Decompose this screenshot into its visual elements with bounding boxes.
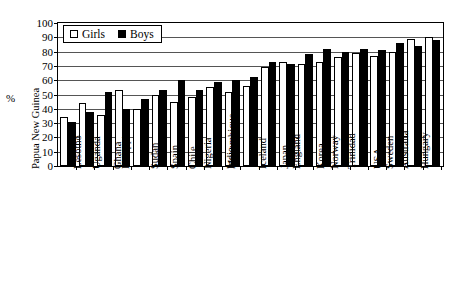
- x-axis-category-labels: Papua New GuineaLesothoUgandaGhanaPhilip…: [57, 169, 444, 285]
- bar-group: [132, 23, 150, 166]
- x-axis-label-cell: Hungary: [425, 169, 443, 285]
- x-axis-label-cell: USA: [370, 169, 388, 285]
- x-axis-label-cell: Trinidad: [351, 169, 369, 285]
- x-axis-tick-label: Papua New Guinea: [31, 88, 42, 169]
- x-axis-label-cell: Chile: [186, 169, 204, 285]
- y-axis-tick-label: 70: [42, 60, 53, 72]
- x-axis-label-cell: Ghana: [113, 169, 131, 285]
- y-axis-unit-label: %: [6, 92, 15, 104]
- x-axis-label-cell: Papua New Guinea: [58, 169, 76, 285]
- bar-chart: % 0102030405060708090100 Girls Boys Papu…: [0, 0, 453, 288]
- x-axis-tick-label: Australia: [401, 131, 412, 170]
- y-axis-tick-label: 90: [42, 31, 53, 43]
- bar-girls: [243, 86, 251, 166]
- x-axis-label-cell: Nigeria: [205, 169, 223, 285]
- y-axis-tick-label: 10: [42, 146, 53, 158]
- bar-boys: [433, 40, 441, 166]
- x-axis-tick-label: Nigeria: [203, 138, 214, 170]
- bar-boys: [141, 99, 149, 166]
- x-axis-tick-label: Norway: [330, 135, 341, 169]
- bar-boys: [305, 54, 313, 166]
- x-axis-label-cell: Sudan: [150, 169, 168, 285]
- legend-item-boys: Boys: [118, 28, 154, 40]
- x-axis-label-cell: England: [296, 169, 314, 285]
- x-axis-label-cell: India: [223, 169, 241, 285]
- x-axis-tick-label: Iceland: [258, 138, 269, 169]
- x-axis-label-cell: Sweden: [388, 169, 406, 285]
- legend-swatch-boys-icon: [118, 30, 126, 38]
- x-axis-label-cell: Philippines: [131, 169, 149, 285]
- bar-boys: [214, 82, 222, 166]
- x-axis-label-cell: Spain: [168, 169, 186, 285]
- x-axis-tick-label: Chile: [189, 146, 200, 169]
- x-axis-tick-label: Korea: [315, 143, 326, 169]
- x-axis-tick-label: Trinidad: [347, 133, 358, 169]
- legend-label-girls: Girls: [82, 28, 105, 40]
- x-axis-label-cell: Lesotho: [76, 169, 94, 285]
- x-axis-tick-label: Spain: [170, 145, 181, 169]
- y-axis-tick-label: 50: [42, 89, 53, 101]
- bar-boys: [360, 49, 368, 166]
- bar-girls: [60, 117, 68, 166]
- x-axis-tick-label: Philippines: [121, 122, 132, 169]
- bar-girls: [133, 109, 141, 166]
- y-axis-tick-label: 20: [42, 131, 53, 143]
- x-axis-tick-label: England: [292, 134, 303, 169]
- legend-item-girls: Girls: [70, 28, 105, 40]
- x-axis-tick-label: Lesotho: [73, 135, 84, 169]
- y-axis-tick-label: 100: [37, 17, 54, 29]
- y-axis-tick-label: 80: [42, 46, 53, 58]
- x-axis-label-cell: Iceland: [260, 169, 278, 285]
- y-axis-tick-label: 60: [42, 74, 53, 86]
- x-axis-tick-label: Sudan: [150, 143, 161, 169]
- x-axis-tick-label: Mozambique: [227, 114, 238, 169]
- y-axis-tick-label: 30: [42, 117, 53, 129]
- chart-legend: Girls Boys: [63, 25, 162, 43]
- x-axis-label-cell: Australia: [406, 169, 424, 285]
- y-axis-tick-label: 0: [48, 160, 54, 172]
- x-axis-label-cell: Norway: [333, 169, 351, 285]
- y-axis-tick-mark: [54, 166, 58, 167]
- legend-label-boys: Boys: [130, 28, 154, 40]
- legend-swatch-girls-icon: [70, 30, 78, 38]
- x-axis-label-cell: Japan: [278, 169, 296, 285]
- x-axis-tick-label: Uganda: [92, 136, 103, 169]
- x-axis-label-cell: Uganda: [95, 169, 113, 285]
- x-axis-tick-label: Sweden: [385, 136, 396, 169]
- x-axis-tick-label: Japan: [280, 145, 291, 169]
- y-axis-tick-label: 40: [42, 103, 53, 115]
- x-axis-label-cell: Mozambique: [241, 169, 259, 285]
- x-axis-label-cell: Korea: [315, 169, 333, 285]
- x-axis-tick-label: USA: [373, 148, 384, 169]
- bar-boys: [269, 62, 277, 166]
- x-axis-tick-label: Hungary: [420, 132, 431, 169]
